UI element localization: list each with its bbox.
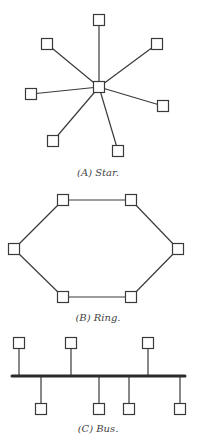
star-hub-node: [94, 82, 105, 93]
ring-node: [58, 292, 69, 303]
star-node: [42, 39, 53, 50]
ring-link: [14, 249, 63, 297]
bus-node: [124, 404, 135, 415]
star-node: [48, 136, 59, 147]
star-node: [158, 101, 169, 112]
ring-topology: [9, 195, 184, 303]
ring-link: [131, 249, 178, 297]
star-link: [53, 87, 99, 141]
star-node: [113, 146, 124, 157]
caption-bus: (C) Bus.: [78, 423, 119, 434]
star-link: [99, 87, 118, 151]
caption-ring: (B) Ring.: [75, 312, 120, 323]
ring-node: [126, 195, 137, 206]
bus-node: [66, 338, 77, 349]
star-link: [99, 44, 157, 87]
ring-node: [9, 244, 20, 255]
bus-topology: [12, 338, 186, 415]
star-link: [31, 87, 99, 94]
network-topology-diagram: (A) Star. (B) Ring. (C) Bus.: [0, 0, 201, 445]
bus-node: [175, 404, 186, 415]
bus-node: [36, 404, 47, 415]
ring-node: [173, 244, 184, 255]
star-link: [47, 44, 99, 87]
star-topology: [26, 15, 169, 157]
star-node: [26, 89, 37, 100]
bus-node: [143, 338, 154, 349]
star-node: [152, 39, 163, 50]
star-node: [94, 15, 105, 26]
ring-node: [126, 292, 137, 303]
caption-star: (A) Star.: [77, 167, 119, 178]
ring-node: [58, 195, 69, 206]
star-link: [99, 87, 163, 106]
ring-link: [131, 200, 178, 249]
bus-node: [14, 338, 25, 349]
bus-node: [94, 404, 105, 415]
ring-link: [14, 200, 63, 249]
